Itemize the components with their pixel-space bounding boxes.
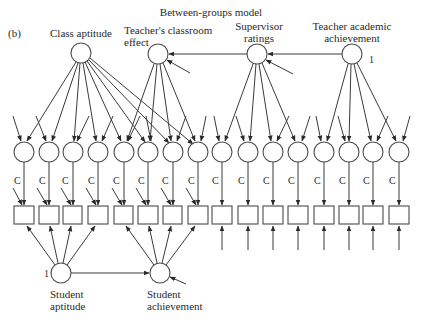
loadings-class-aptitude	[27, 58, 193, 144]
residual-circle	[163, 142, 183, 162]
residual-circle	[63, 142, 83, 162]
residual-circle	[114, 142, 134, 162]
svg-text:C: C	[88, 175, 95, 186]
indicator-box	[314, 206, 334, 224]
indicator-box	[263, 206, 283, 224]
residual-circles	[14, 142, 409, 162]
label-fixed-1-student: 1	[44, 268, 49, 279]
label-teacher-academic-2: achievement	[324, 32, 380, 44]
loading-c-labels: C C C C C C C C C C C C C C C C	[14, 175, 396, 186]
latent-student-aptitude	[51, 263, 71, 283]
indicator-box	[238, 206, 258, 224]
indicator-box	[88, 206, 108, 224]
label-supervisor-2: ratings	[244, 32, 274, 44]
loadings-supervisor	[225, 63, 295, 141]
label-teacher-academic-1: Teacher academic	[313, 20, 392, 32]
svg-text:C: C	[363, 175, 370, 186]
indicator-error-arrows	[222, 226, 399, 250]
latent-class-aptitude	[71, 43, 91, 63]
label-class-aptitude: Class aptitude	[50, 27, 112, 39]
svg-text:C: C	[138, 175, 145, 186]
label-student-achievement-1: Student	[147, 288, 181, 300]
residual-error-arrows	[13, 116, 410, 141]
disturbance-supervisor	[266, 60, 293, 74]
label-student-achievement-2: achievement	[147, 300, 203, 312]
indicator-box	[39, 206, 59, 224]
residual-circle	[39, 142, 59, 162]
loadings-teacher-academic	[327, 63, 396, 141]
svg-text:C: C	[14, 175, 21, 186]
residual-circle	[88, 142, 108, 162]
loadings-student-achievement	[126, 226, 195, 265]
residual-circle	[363, 142, 383, 162]
svg-text:C: C	[188, 175, 195, 186]
svg-text:C: C	[238, 175, 245, 186]
diagram-title: Between-groups model	[160, 6, 262, 18]
indicator-box	[163, 206, 182, 224]
residual-circle	[389, 142, 409, 162]
svg-text:C: C	[339, 175, 346, 186]
label-teacher-classroom-1: Teacher's classroom	[124, 24, 213, 36]
svg-text:C: C	[162, 175, 169, 186]
svg-text:C: C	[62, 175, 69, 186]
svg-text:C: C	[263, 175, 270, 186]
residual-circle	[314, 142, 334, 162]
svg-text:C: C	[113, 175, 120, 186]
residual-circle	[339, 142, 359, 162]
indicator-box	[114, 206, 133, 224]
residual-circle	[212, 142, 232, 162]
svg-text:C: C	[389, 175, 396, 186]
residual-circle	[188, 142, 208, 162]
disturbance-classroom	[167, 60, 190, 73]
label-supervisor-1: Supervisor	[235, 20, 283, 32]
indicator-box	[212, 206, 232, 224]
loadings-teacher-classroom	[127, 63, 195, 141]
residual-circle	[288, 142, 308, 162]
indicator-boxes	[14, 206, 409, 224]
label-fixed-1-teacher: 1	[369, 54, 374, 65]
latent-teacher-academic	[342, 44, 362, 64]
indicator-box	[14, 206, 34, 224]
loadings-student-aptitude	[27, 226, 95, 265]
svg-text:C: C	[212, 175, 219, 186]
residual-circle	[238, 142, 258, 162]
latent-student-achievement	[150, 263, 170, 283]
indicator-box	[339, 206, 359, 224]
label-student-aptitude-1: Student	[50, 288, 84, 300]
svg-text:C: C	[39, 175, 46, 186]
svg-text:C: C	[314, 175, 321, 186]
svg-text:C: C	[288, 175, 295, 186]
indicator-box	[363, 206, 383, 224]
residual-circle	[138, 142, 158, 162]
indicator-box	[188, 206, 208, 224]
indicator-box	[63, 206, 82, 224]
label-student-aptitude-2: aptitude	[50, 300, 86, 312]
latent-supervisor	[247, 44, 267, 64]
indicator-diagonal-arrows	[13, 188, 196, 205]
residual-circle	[14, 142, 34, 162]
indicator-box	[138, 206, 158, 224]
latent-teacher-classroom	[148, 44, 168, 64]
panel-label: (b)	[8, 27, 21, 40]
between-groups-sem-diagram: Between-groups model (b) Class aptitude …	[0, 0, 423, 322]
indicator-box	[389, 206, 409, 224]
indicator-box	[288, 206, 308, 224]
label-teacher-classroom-2: effect	[124, 36, 149, 48]
disturbance-student-achievement	[170, 277, 186, 284]
residual-circle	[263, 142, 283, 162]
